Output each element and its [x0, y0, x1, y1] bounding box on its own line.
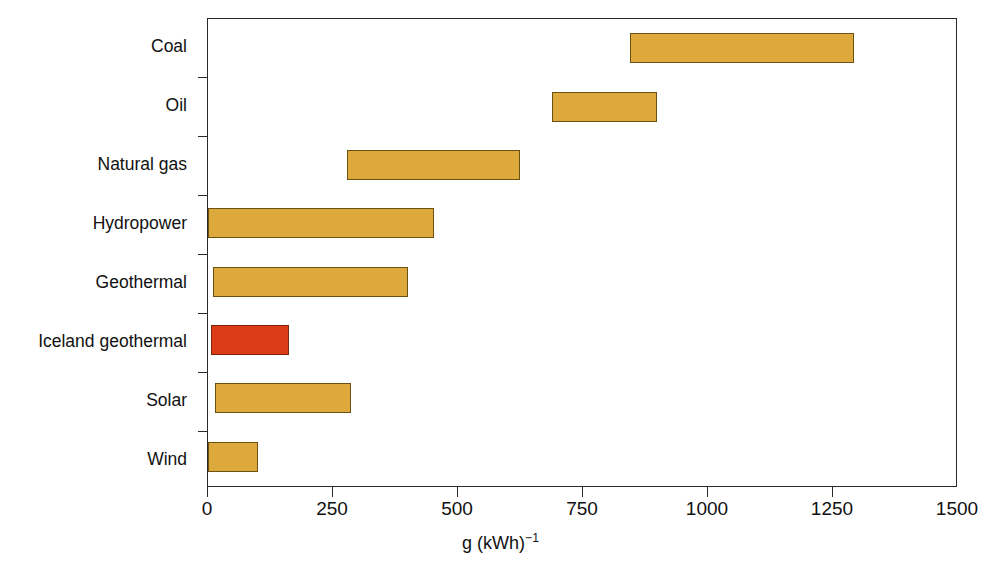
y-axis-tick [198, 136, 207, 137]
y-axis-label-solar: Solar [146, 392, 187, 410]
y-axis-tick [198, 77, 207, 78]
y-axis-tick [198, 313, 207, 314]
x-axis-tick-label-750: 750 [566, 499, 598, 518]
y-axis-label-coal: Coal [151, 38, 187, 56]
x-axis-tick [332, 487, 333, 497]
x-axis-tick [832, 487, 833, 497]
x-axis-tick-label-1000: 1000 [686, 499, 728, 518]
x-axis-title-exponent: −1 [525, 531, 539, 545]
x-axis-tick [207, 487, 208, 497]
x-axis-tick-label-250: 250 [316, 499, 348, 518]
y-axis-label-natural-gas: Natural gas [98, 156, 188, 174]
x-axis-tick-label-1500: 1500 [936, 499, 978, 518]
bar-hydropower [208, 208, 434, 238]
y-axis-label-wind: Wind [147, 451, 187, 469]
x-axis-tick-label-1250: 1250 [811, 499, 853, 518]
x-axis-title: g (kWh)−1 [0, 533, 1001, 554]
y-axis-tick [198, 195, 207, 196]
x-axis-tick-label-0: 0 [202, 499, 213, 518]
bar-natural-gas [347, 150, 521, 180]
y-axis-tick [198, 372, 207, 373]
y-axis-label-oil: Oil [166, 97, 187, 115]
y-axis-tick [198, 431, 207, 432]
y-axis-tick [198, 254, 207, 255]
bar-solar [215, 383, 351, 413]
bar-wind [208, 442, 258, 472]
x-axis-tick [707, 487, 708, 497]
x-axis-tick [457, 487, 458, 497]
x-axis-tick [582, 487, 583, 497]
y-axis-label-iceland-geothermal: Iceland geothermal [38, 333, 187, 351]
bar-oil [552, 92, 657, 122]
x-axis-tick-label-500: 500 [441, 499, 473, 518]
plot-area [207, 18, 957, 487]
y-axis-label-geothermal: Geothermal [96, 274, 187, 292]
y-axis-labels: Coal Oil Natural gas Hydropower Geotherm… [0, 0, 197, 576]
bar-coal [630, 33, 854, 63]
x-axis-title-base: g (kWh) [462, 533, 525, 553]
chart-container: Coal Oil Natural gas Hydropower Geotherm… [0, 0, 1001, 576]
bar-iceland-geothermal [211, 325, 289, 355]
y-axis-label-hydropower: Hydropower [93, 215, 187, 233]
bar-geothermal [213, 267, 408, 297]
